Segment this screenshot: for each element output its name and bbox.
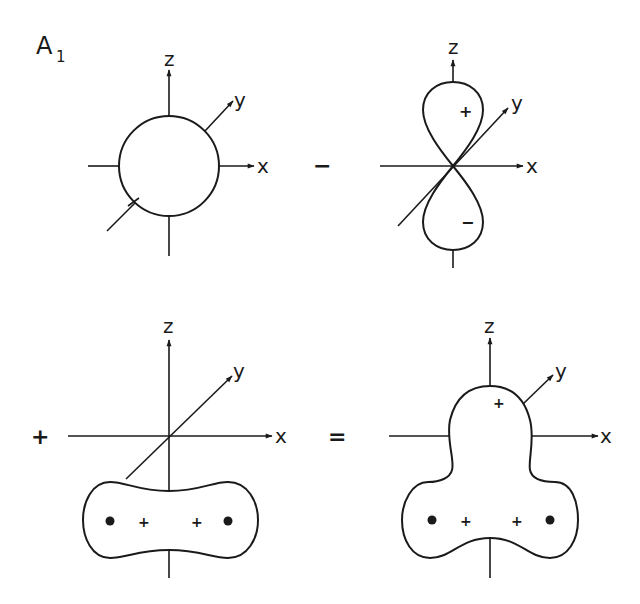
sign-top: + (493, 395, 505, 411)
y-axis (523, 375, 553, 404)
x-axis-label: x (257, 154, 269, 178)
sign-left: + (138, 514, 150, 530)
z-axis-label: z (484, 314, 495, 338)
resulting-orbital-shape (402, 386, 578, 558)
nucleus-left (106, 517, 115, 526)
figure-label: A 1 (36, 32, 66, 66)
minus-operator: − (313, 153, 331, 178)
y-axis-label: y (233, 359, 245, 383)
nucleus-right (224, 517, 233, 526)
z-axis-label: z (163, 314, 174, 338)
positive-lobe-sign: + (459, 102, 472, 121)
negative-lobe-sign: − (461, 213, 474, 232)
y-axis-label: y (234, 88, 246, 112)
x-axis-label: x (600, 424, 612, 448)
y-axis-label: y (555, 359, 567, 383)
sign-right: + (191, 514, 203, 530)
plus-operator: + (31, 424, 49, 449)
panel-ligand-combination: + + z y x (68, 314, 287, 578)
x-axis-label: x (526, 154, 538, 178)
figure-label-main: A (36, 32, 53, 60)
equals-operator: = (328, 424, 346, 449)
panel-pz-orbital: + − z y x (380, 35, 538, 268)
z-axis-label: z (164, 47, 175, 71)
y-axis-label: y (511, 91, 523, 115)
z-axis-label: z (448, 35, 459, 59)
sign-right: + (511, 513, 523, 529)
nucleus-left (428, 516, 437, 525)
orbital-diagram: A 1 z y x − + − z y x + (0, 0, 640, 604)
figure-label-subscript: 1 (56, 48, 66, 66)
panel-s-orbital: z y x (88, 47, 269, 256)
panel-resulting-orbital: + + + z y x (389, 314, 612, 578)
nucleus-right (546, 516, 555, 525)
y-axis (205, 101, 233, 131)
sign-left: + (460, 513, 472, 529)
y-axis (126, 376, 232, 479)
x-axis-label: x (275, 424, 287, 448)
y-axis-negative (107, 199, 139, 231)
